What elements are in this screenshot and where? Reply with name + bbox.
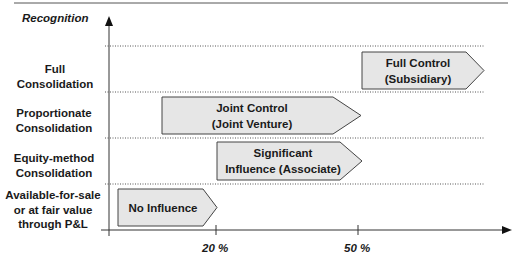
y-axis-arrow-icon [105, 16, 113, 26]
x-axis-arrow-icon [502, 226, 512, 234]
shape-label-line: Joint Control [162, 100, 342, 116]
row-label-equity-method: Equity-method Consolidation [4, 151, 104, 180]
row-label-line: Proportionate [4, 106, 104, 121]
significant-influence-label: Significant Influence (Associate) [217, 145, 349, 177]
shape-label-line: No Influence [118, 200, 208, 216]
row-label-available-for-sale: Available-for-sale or at fair value thro… [0, 188, 106, 232]
shape-label-line: (Subsidiary) [362, 71, 474, 87]
no-influence-label: No Influence [118, 200, 208, 216]
row-label-full-consolidation: Full Consolidation [10, 62, 100, 91]
row-label-line: through P&L [0, 217, 106, 232]
shape-label-line: (Joint Venture) [162, 116, 342, 132]
row-label-line: or at fair value [0, 203, 106, 218]
row-label-line: Full [10, 62, 100, 77]
joint-control-label: Joint Control (Joint Venture) [162, 100, 342, 132]
tick-label-50: 50 % [344, 242, 370, 254]
row-label-line: Consolidation [4, 121, 104, 136]
shape-label-line: Influence (Associate) [217, 161, 349, 177]
y-axis-title: Recognition [22, 12, 88, 24]
shape-label-line: Significant [217, 145, 349, 161]
row-label-line: Equity-method [4, 151, 104, 166]
row-label-line: Consolidation [4, 166, 104, 181]
shape-label-line: Full Control [362, 55, 474, 71]
tick-label-20: 20 % [202, 242, 228, 254]
row-label-line: Consolidation [10, 77, 100, 92]
row-label-proportionate-consolidation: Proportionate Consolidation [4, 106, 104, 135]
full-control-label: Full Control (Subsidiary) [362, 55, 474, 87]
row-label-line: Available-for-sale [0, 188, 106, 203]
